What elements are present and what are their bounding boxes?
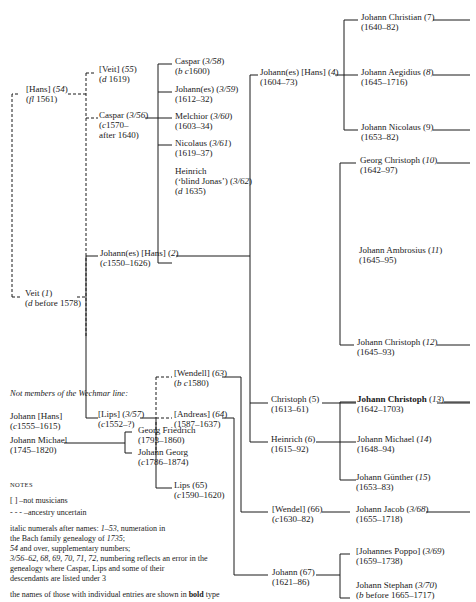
person-johann-aegidius-8: Johann Aegidius (8) (1645–1716): [361, 67, 434, 87]
person-johannes-hans-2: Johann(es) [Hans] (2) (c1550–1626): [100, 248, 178, 268]
person-veit-1: Veit (1) (d before 1578): [25, 288, 81, 308]
person-johann-stephan-3-70: Johann Stephan (3/70) (b before 1665–171…: [356, 580, 437, 600]
person-melchior-3-60: Melchior (3/60) (1603–34): [175, 111, 232, 131]
note-line-4: 3/56–62, 68, 69, 70, 71, 72, numbering r…: [10, 554, 208, 564]
person-hans-54: [Hans] (54) (fl 1561): [26, 84, 68, 104]
person-johann-hans-nonmember: Johann [Hans] (c1555–1615): [10, 411, 62, 431]
person-johann-michael-nonmember: Johann Michael (1745–1820): [10, 435, 67, 455]
person-georg-christoph-10: Georg Christoph (10) (1642–97): [360, 155, 437, 175]
brackets-symbol: [ ]: [10, 496, 17, 505]
dashes-symbol: - - -: [10, 508, 22, 517]
person-johannes-hans-4: Johann(es) [Hans] (4) (1604–73): [260, 67, 338, 87]
person-wendell-63: [Wendell] (63) (b c1580): [174, 368, 227, 388]
note-line-1: italic numerals after names: 1–53, numer…: [10, 524, 165, 534]
person-johann-nicolaus-9: Johann Nicolaus (9) (1653–82): [361, 122, 433, 142]
person-christoph-5: Christoph (5) (1613–61): [271, 394, 319, 414]
person-georg-friedrich: Georg Friedrich (1793–1860): [138, 425, 196, 445]
person-johann-67: Johann (67) (1621–86): [272, 567, 315, 587]
person-johann-christoph-12: Johann Christoph (12) (1645–93): [357, 337, 438, 357]
notes-title: NOTES: [10, 481, 33, 488]
person-heinrich-3-62: Heinrich (‘blind Jonas’) (3/62) (d 1635): [175, 166, 252, 196]
note-line-6: descendants are listed under 3: [10, 574, 106, 584]
note-line-3: 54 and over, supplementary numbers;: [10, 544, 130, 554]
person-johann-jacob-3-68: Johann Jacob (3/68) (1655–1718): [356, 504, 429, 524]
person-heinrich-6: Heinrich (6) (1615–92): [271, 434, 315, 454]
person-johann-georg: Johann Georg (c1786–1874): [138, 447, 189, 467]
person-wendel-66: [Wendel] (66) (c1630–82): [272, 504, 323, 524]
person-johann-ambrosius-11: Johann Ambrosius (11) (1645–95): [359, 245, 442, 265]
note-line-5: genealogy where Caspar, Lips and some of…: [10, 564, 164, 574]
person-johann-guenther-15: Johann Günther (15) (1653–83): [356, 472, 431, 492]
person-johannes-3-59: Johann(es) (3/59) (1612–32): [175, 84, 238, 104]
note-line-2: the Bach family genealogy of 1735;: [10, 534, 125, 544]
note-brackets: [ ] –not musicians: [10, 496, 68, 506]
person-caspar-3-56: Caspar (3/56) (c1570– after 1640): [99, 110, 148, 140]
note-dashes: - - - –ancestry uncertain: [10, 508, 86, 518]
nonmembers-title: Not members of the Wechmar line:: [10, 388, 128, 398]
person-johannes-poppo-3-69: [Johannes Poppo] (3/69) (1659–1738): [356, 546, 445, 566]
person-veit-55: [Veit] (55) (d 1619): [99, 64, 137, 84]
person-caspar-3-58: Caspar (3/58) (b c1600): [175, 56, 224, 76]
note-bold-entries: the names of those with individual entri…: [10, 590, 220, 600]
person-johann-michael-14: Johann Michael (14) (1648–94): [357, 434, 431, 454]
person-lips-65: Lips (65) (c1590–1620): [174, 480, 225, 500]
person-nicolaus-3-61: Nicolaus (3/61) (1619–37): [175, 138, 231, 158]
person-johann-christoph-13: Johann Christoph (13) (1642–1703): [357, 394, 444, 414]
person-johann-christian-7: Johann Christian (7) (1640–82): [361, 12, 435, 32]
